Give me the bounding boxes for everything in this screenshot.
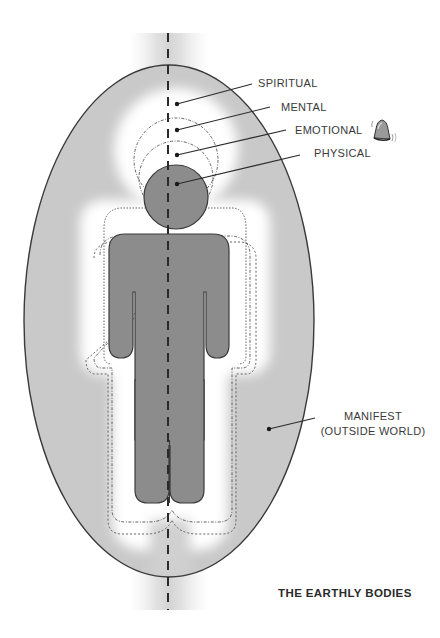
ringing-bell-icon — [368, 115, 398, 147]
label-mental: MENTAL — [281, 101, 327, 113]
label-emotional: EMOTIONAL — [295, 124, 363, 136]
label-physical: PHYSICAL — [314, 147, 371, 159]
head — [144, 165, 208, 229]
label-manifest-line1: MANIFEST — [318, 410, 428, 422]
label-spiritual: SPIRITUAL — [258, 77, 318, 89]
label-manifest: MANIFEST (OUTSIDE WORLD) — [318, 410, 428, 437]
figure-title: THE EARTHLY BODIES — [278, 587, 412, 599]
torso-fill — [136, 375, 203, 445]
label-manifest-line2: (OUTSIDE WORLD) — [318, 425, 428, 437]
earthly-bodies-diagram — [0, 0, 440, 638]
